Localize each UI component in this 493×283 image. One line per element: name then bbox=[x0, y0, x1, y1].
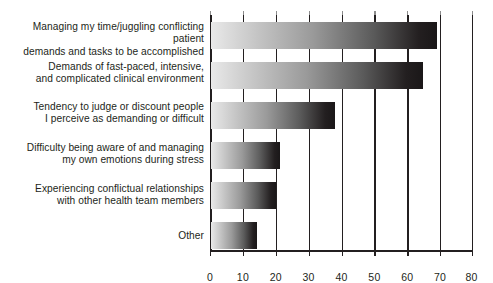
top-tick-20 bbox=[276, 11, 277, 15]
bar bbox=[211, 102, 335, 129]
x-tick-label: 0 bbox=[207, 271, 213, 283]
top-tick-70 bbox=[440, 11, 441, 15]
x-tick-label: 10 bbox=[237, 271, 249, 283]
plot-area: 0 10 20 30 40 50 60 70 80 bbox=[210, 15, 473, 252]
horizontal-bar-chart: Managing my time/juggling conflicting pa… bbox=[0, 0, 493, 283]
gridline-80 bbox=[472, 15, 473, 252]
tick-20 bbox=[276, 252, 277, 256]
tick-40 bbox=[342, 252, 343, 256]
tick-10 bbox=[243, 252, 244, 256]
x-tick-label: 40 bbox=[335, 271, 347, 283]
bar bbox=[211, 22, 437, 49]
top-tick-60 bbox=[407, 11, 408, 15]
category-label: Demands of fast-paced, intensive, and co… bbox=[36, 61, 204, 86]
category-label: Managing my time/juggling conflicting pa… bbox=[0, 21, 204, 58]
top-tick-80 bbox=[472, 11, 473, 15]
top-tick-40 bbox=[342, 11, 343, 15]
gridline-40 bbox=[342, 15, 343, 252]
top-tick-50 bbox=[374, 11, 375, 15]
top-tick-0 bbox=[210, 11, 211, 15]
gridline-60 bbox=[407, 15, 408, 252]
gridline-30 bbox=[309, 15, 310, 252]
category-label: Difficulty being aware of and managing m… bbox=[27, 142, 204, 167]
tick-0 bbox=[210, 252, 211, 256]
tick-30 bbox=[309, 252, 310, 256]
gridline-10 bbox=[243, 15, 244, 252]
x-tick-label: 50 bbox=[368, 271, 380, 283]
bar bbox=[211, 142, 280, 169]
tick-60 bbox=[407, 252, 408, 256]
top-tick-10 bbox=[243, 11, 244, 15]
y-axis-line bbox=[210, 15, 212, 252]
category-label: Other bbox=[178, 230, 204, 242]
bar bbox=[211, 182, 276, 209]
tick-50 bbox=[374, 252, 375, 256]
gridline-50 bbox=[374, 15, 375, 252]
tick-70 bbox=[440, 252, 441, 256]
x-tick-label: 80 bbox=[465, 271, 477, 283]
category-label: Tendency to judge or discount people I p… bbox=[33, 101, 204, 126]
tick-80 bbox=[472, 252, 473, 256]
x-tick-label: 30 bbox=[303, 271, 315, 283]
x-tick-label: 60 bbox=[401, 271, 413, 283]
bar bbox=[211, 222, 257, 249]
x-tick-label: 20 bbox=[270, 271, 282, 283]
bar bbox=[211, 62, 423, 89]
gridline-20 bbox=[276, 15, 277, 252]
gridline-70 bbox=[440, 15, 441, 252]
top-tick-30 bbox=[309, 11, 310, 15]
category-label: Experiencing conflictual relationships w… bbox=[35, 183, 204, 208]
category-label-column: Managing my time/juggling conflicting pa… bbox=[0, 0, 204, 283]
x-tick-label: 70 bbox=[434, 271, 446, 283]
